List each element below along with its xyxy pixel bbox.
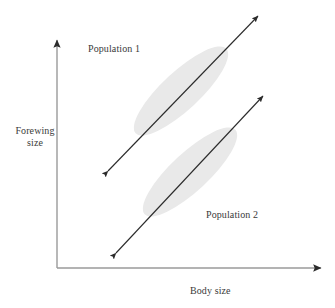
population-1-trend-arrow	[108, 16, 258, 171]
population-1-label: Population 1	[88, 43, 140, 55]
y-axis-label-line2: size	[27, 137, 43, 148]
y-axis-label-line1: Forewing	[15, 125, 54, 136]
y-axis-label: Forewingsize	[11, 125, 59, 148]
x-axis-label: Body size	[190, 285, 231, 297]
diagram-svg	[0, 0, 335, 308]
population-2-label: Population 2	[206, 209, 258, 221]
figure-canvas: Population 1 Population 2 Forewingsize B…	[0, 0, 335, 308]
